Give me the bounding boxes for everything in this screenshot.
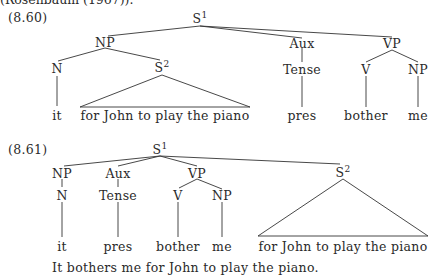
leaf-clause: for John to play the piano xyxy=(81,110,250,123)
leaf-me: me xyxy=(408,110,428,123)
node-vp: VP xyxy=(383,38,401,51)
node-tense: Tense xyxy=(99,190,137,203)
leaf-pres: pres xyxy=(288,110,317,123)
node-np: NP xyxy=(212,190,232,203)
node-aux: Aux xyxy=(105,168,130,181)
node-tense: Tense xyxy=(283,64,321,77)
node-vp: VP xyxy=(188,168,206,181)
node-v: V xyxy=(361,64,370,77)
node-n: N xyxy=(51,63,62,76)
node-index: 1 xyxy=(161,141,167,151)
node-v: V xyxy=(173,190,182,203)
example-label: (8.61) xyxy=(8,144,47,157)
node-s1: S1 xyxy=(193,13,208,26)
leaf-it: it xyxy=(57,241,67,254)
example-label: (8.60) xyxy=(8,12,47,25)
node-index: 2 xyxy=(344,164,350,174)
node-cat: S xyxy=(336,165,345,180)
leaf-clause: for John to play the piano xyxy=(259,241,428,254)
node-index: 1 xyxy=(201,10,207,20)
tree-branches xyxy=(0,0,440,275)
node-s2: S2 xyxy=(155,62,170,75)
node-aux: Aux xyxy=(289,38,314,51)
leaf-it: it xyxy=(52,110,62,123)
node-cat: S xyxy=(153,142,162,157)
node-index: 2 xyxy=(163,59,169,69)
leaf-bother: bother xyxy=(344,110,388,123)
leaf-bother: bother xyxy=(156,241,200,254)
node-cat: S xyxy=(193,11,202,26)
example-sentence: It bothers me for John to play the piano… xyxy=(52,262,319,275)
leaf-pres: pres xyxy=(104,241,133,254)
header-fragment: (Rosenbaum (1967)). xyxy=(0,0,133,7)
node-np: NP xyxy=(408,64,428,77)
node-s2: S2 xyxy=(336,167,351,180)
node-n: N xyxy=(56,190,67,203)
node-np: NP xyxy=(95,37,115,50)
node-cat: S xyxy=(155,60,164,75)
node-s1: S1 xyxy=(153,144,168,157)
node-np: NP xyxy=(52,168,72,181)
leaf-me: me xyxy=(212,241,232,254)
